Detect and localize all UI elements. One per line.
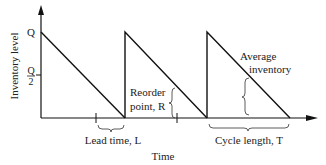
inventory-diagram: Inventory level Q Q 2 Lead time, L Reord… <box>0 0 326 165</box>
y-tick-q: Q <box>27 26 35 38</box>
x-axis-arrow-icon <box>306 115 318 121</box>
average-label-line1: Average <box>240 50 277 62</box>
y-tick-half-q-den: 2 <box>29 76 34 87</box>
lead-time-brace <box>98 125 124 132</box>
x-axis-label: Time <box>152 150 175 162</box>
reorder-label-line1: Reorder <box>130 86 166 98</box>
reorder-label-line2: point, R <box>130 100 166 112</box>
reorder-brace <box>169 88 175 118</box>
average-brace <box>242 78 249 115</box>
sawtooth-cycle-1 <box>41 32 125 118</box>
average-label-line2: inventory <box>249 63 292 75</box>
lead-time-label: Lead time, L <box>85 134 142 146</box>
y-tick-half-q-num: Q <box>27 65 35 76</box>
y-axis-arrow-icon <box>38 5 44 15</box>
cycle-length-brace <box>209 124 289 131</box>
sawtooth-cycle-3 <box>207 32 290 118</box>
cycle-length-label: Cycle length, T <box>215 134 283 146</box>
y-axis-label: Inventory level <box>8 33 20 100</box>
